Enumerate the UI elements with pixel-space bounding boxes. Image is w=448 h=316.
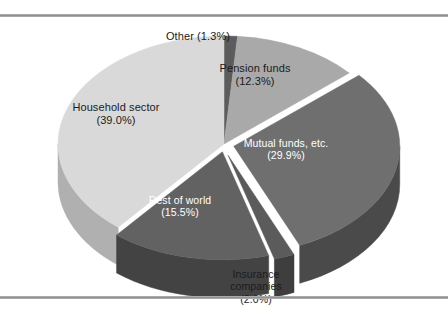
figure-pie-chart: Other (1.3%) Pension funds (12.3%) House… xyxy=(0,0,448,316)
pie-label-other: Other (1.3%) xyxy=(108,30,288,43)
pie-label-insurance-companies: Insurance companies (2.0%) xyxy=(186,268,326,305)
figure-footnote: · ··· ·· ·· ··· ·· ··· ·· ···· ·· ··· ··… xyxy=(0,304,448,316)
pie-label-rest-of-world-line1: Rest of world xyxy=(110,194,250,206)
pie-label-mutual-funds: Mutual funds, etc. (29.9%) xyxy=(212,137,360,162)
pie-label-other-line1: Other (1.3%) xyxy=(108,30,288,43)
pie-chart-canvas: Other (1.3%) Pension funds (12.3%) House… xyxy=(0,16,448,296)
pie-label-rest-of-world: Rest of world (15.5%) xyxy=(110,194,250,219)
pie-label-household-sector: Household sector (39.0%) xyxy=(31,101,201,127)
pie-label-pension-funds-line2: (12.3%) xyxy=(181,75,329,88)
figure-footnote-text: · ··· ·· ·· ··· ·· ··· ·· ···· ·· ··· ··… xyxy=(0,304,448,308)
pie-label-household-sector-line2: (39.0%) xyxy=(31,114,201,127)
pie-label-pension-funds-line1: Pension funds xyxy=(181,62,329,75)
pie-label-household-sector-line1: Household sector xyxy=(31,101,201,114)
bottom-divider-rule xyxy=(0,296,448,299)
pie-label-insurance-companies-line2: companies xyxy=(186,280,326,292)
pie-label-pension-funds: Pension funds (12.3%) xyxy=(181,62,329,88)
pie-label-rest-of-world-line2: (15.5%) xyxy=(110,206,250,218)
pie-label-mutual-funds-line1: Mutual funds, etc. xyxy=(212,137,360,149)
pie-label-insurance-companies-line1: Insurance xyxy=(186,268,326,280)
pie-label-mutual-funds-line2: (29.9%) xyxy=(212,149,360,161)
